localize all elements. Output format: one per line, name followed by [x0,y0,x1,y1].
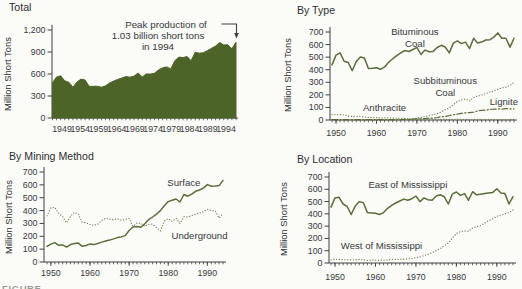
svg-text:1950: 1950 [325,272,345,282]
svg-text:1,200: 1,200 [23,25,45,35]
svg-text:1980: 1980 [158,268,178,278]
svg-text:100: 100 [309,102,324,112]
svg-text:1979: 1979 [162,124,182,134]
svg-text:Surface: Surface [167,177,200,188]
svg-text:Anthracite: Anthracite [363,102,406,113]
svg-text:500: 500 [309,52,324,62]
svg-text:400: 400 [308,209,323,219]
svg-text:1959: 1959 [89,124,109,134]
svg-text:400: 400 [309,65,324,75]
svg-text:200: 200 [23,231,38,241]
svg-text:300: 300 [308,221,323,231]
svg-text:BituminousCoal: BituminousCoal [391,26,439,49]
svg-text:0: 0 [318,258,323,268]
svg-text:1960: 1960 [367,128,387,138]
chart-by-type-plot: 0100200300400500600700195019601970198019… [261,0,522,145]
svg-text:0: 0 [33,257,38,267]
svg-text:Underground: Underground [172,230,228,241]
svg-text:1974: 1974 [143,124,163,134]
svg-text:600: 600 [31,69,46,79]
svg-text:900: 900 [31,47,46,57]
svg-text:1980: 1980 [448,128,468,138]
svg-text:1989: 1989 [198,124,218,134]
svg-text:300: 300 [31,91,46,101]
svg-text:1990: 1990 [487,272,507,282]
svg-text:1950: 1950 [41,268,61,278]
svg-text:700: 700 [309,27,324,37]
svg-text:200: 200 [309,90,324,100]
svg-text:600: 600 [308,184,323,194]
svg-text:0: 0 [41,113,46,123]
svg-text:1964: 1964 [107,124,127,134]
svg-text:1970: 1970 [407,128,427,138]
svg-text:1949: 1949 [52,124,72,134]
chart-by-location-panel: By Location Million Short Tons 010020030… [261,145,522,289]
chart-by-mining-method-panel: By Mining Method Million Short Tons 0100… [0,145,261,289]
svg-text:300: 300 [309,77,324,87]
svg-text:600: 600 [309,40,324,50]
chart-total-plot: 03006009001,2001949195419591964196919741… [0,0,261,145]
svg-text:300: 300 [23,218,38,228]
svg-text:500: 500 [308,197,323,207]
svg-text:600: 600 [23,180,38,190]
svg-text:700: 700 [23,167,38,177]
svg-text:500: 500 [23,193,38,203]
svg-text:1980: 1980 [447,272,467,282]
svg-text:1984: 1984 [180,124,200,134]
svg-text:1994: 1994 [216,124,236,134]
svg-text:400: 400 [23,206,38,216]
svg-text:1990: 1990 [488,128,508,138]
svg-text:SubbituminousCoal: SubbituminousCoal [414,75,478,98]
svg-text:West of Mississippi: West of Mississippi [341,240,422,251]
chart-total-panel: Total Million Short Tons 03006009001,200… [0,0,261,145]
chart-by-mining-method-plot: 0100200300400500600700195019601970198019… [0,145,261,289]
svg-text:1960: 1960 [366,272,386,282]
cropped-caption-fragment: FIGURE [2,283,162,289]
svg-text:200: 200 [308,233,323,243]
svg-text:100: 100 [23,244,38,254]
svg-text:1960: 1960 [80,268,100,278]
svg-text:0: 0 [319,115,324,125]
svg-text:1970: 1970 [119,268,139,278]
svg-text:Lignite: Lignite [490,96,518,107]
svg-text:East of Mississippi: East of Mississippi [368,179,447,190]
coal-production-figure: Total Million Short Tons 03006009001,200… [0,0,522,289]
svg-text:1970: 1970 [406,272,426,282]
svg-text:100: 100 [308,246,323,256]
svg-text:1950: 1950 [326,128,346,138]
svg-text:1969: 1969 [125,124,145,134]
svg-text:Peak production of1.03 billion: Peak production of1.03 billion short ton… [112,19,207,52]
svg-text:700: 700 [308,172,323,182]
svg-text:1990: 1990 [198,268,218,278]
chart-by-type-panel: By Type Million Short Tons 0100200300400… [261,0,522,145]
svg-text:1954: 1954 [70,124,90,134]
chart-by-location-plot: 0100200300400500600700195019601970198019… [261,145,522,289]
